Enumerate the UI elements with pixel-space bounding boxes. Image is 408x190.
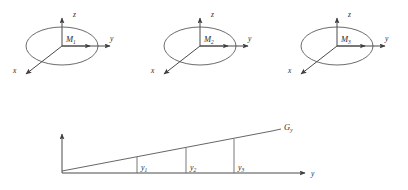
z-axis-label-1: z xyxy=(72,10,76,19)
magnetization-label-2: M2 xyxy=(203,34,214,45)
gradient-label: Gy xyxy=(284,122,293,133)
gradient-plot: y y1 y2 y3 Gy xyxy=(62,122,315,178)
gradient-horizontal-axis-label: y xyxy=(310,169,315,178)
y-axis-label-2: y xyxy=(247,34,252,43)
figure-container: z y x M1 z y x M2 z y x M3 xyxy=(0,0,408,190)
coordinate-system-3: z y x M3 xyxy=(287,10,389,75)
z-axis-label-3: z xyxy=(347,10,351,19)
y-axis-label-1: y xyxy=(109,34,114,43)
magnetization-label-3: M3 xyxy=(340,34,351,45)
y-axis-label-3: y xyxy=(384,34,389,43)
x-axis-label-1: x xyxy=(12,66,17,75)
x-axis-1 xyxy=(26,46,62,74)
x-axis-2 xyxy=(164,46,200,74)
gradient-subscript: y xyxy=(289,127,293,133)
slice-label-1: y1 xyxy=(140,163,148,173)
slice-subscript-1: 1 xyxy=(145,167,148,173)
magnetization-label-1: M1 xyxy=(65,34,76,45)
x-axis-label-3: x xyxy=(287,66,292,75)
magnetization-subscript-1: 1 xyxy=(73,39,76,45)
slice-subscript-2: 2 xyxy=(194,167,197,173)
x-axis-3 xyxy=(301,46,337,74)
gradient-label-leader xyxy=(272,129,281,131)
slice-label-2: y2 xyxy=(189,163,197,173)
z-axis-label-2: z xyxy=(210,10,214,19)
x-axis-label-2: x xyxy=(150,66,155,75)
slice-subscript-3: 3 xyxy=(241,167,245,173)
coordinate-system-1: z y x M1 xyxy=(12,10,114,75)
figure-svg: z y x M1 z y x M2 z y x M3 xyxy=(0,0,408,190)
slice-label-3: y3 xyxy=(237,163,245,173)
magnetization-subscript-2: 2 xyxy=(211,39,214,45)
coordinate-system-2: z y x M2 xyxy=(150,10,252,75)
magnetization-subscript-3: 3 xyxy=(347,39,351,45)
